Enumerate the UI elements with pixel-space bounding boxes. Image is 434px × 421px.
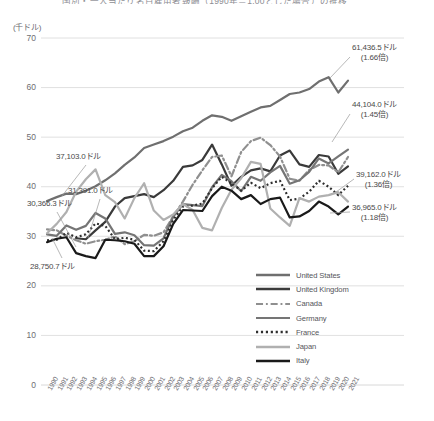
series-lines [47, 77, 348, 258]
legend-swatch-icon-germany [256, 313, 290, 323]
label-de-start-value: 30,366.3ドル [27, 199, 72, 209]
legend-swatch-icon-france [256, 327, 290, 337]
legend-item-italy[interactable]: Italy [256, 354, 364, 368]
label-it-start-value: 28,750.7ドル [30, 262, 75, 272]
label-ca-end-value: 39,162.0ドル [356, 170, 401, 180]
label-de-start: 30,366.3ドル [27, 199, 72, 209]
label-ca-end-ratio: (1.36倍) [356, 180, 401, 190]
y-tick-40: 40 [14, 181, 36, 191]
series-line-japan [47, 162, 348, 233]
label-us-end-leader [330, 57, 350, 78]
y-tick-10: 10 [14, 330, 36, 340]
label-fr-end-ratio: (1.18倍) [352, 213, 397, 223]
legend-item-japan[interactable]: Japan [256, 339, 364, 353]
label-it-start-leader [52, 238, 62, 258]
label-ca-start-value: 31,391.0ドル [68, 186, 113, 196]
legend-label-france: France [296, 328, 319, 337]
label-uk-end-ratio: (1.45倍) [352, 110, 397, 120]
label-us-start-value: 37,103.0ドル [56, 152, 101, 162]
legend-swatch-icon-united-kingdom [256, 284, 290, 294]
legend-item-united-states[interactable]: United States [256, 268, 364, 282]
label-uk-end: 44,104.0ドル(1.45倍) [352, 100, 397, 120]
label-ca-end: 39,162.0ドル(1.36倍) [356, 170, 401, 190]
chart-legend: United StatesUnited KingdomCanadaGermany… [256, 268, 364, 368]
y-tick-50: 50 [14, 132, 36, 142]
label-it-start: 28,750.7ドル [30, 262, 75, 272]
legend-item-canada[interactable]: Canada [256, 297, 364, 311]
y-tick-60: 60 [14, 82, 36, 92]
legend-item-united-kingdom[interactable]: United Kingdom [256, 282, 364, 296]
label-uk-end-leader [332, 114, 350, 142]
label-fr-end-leader [330, 212, 350, 213]
label-us-end: 61,436.5ドル(1.66倍) [352, 43, 397, 63]
legend-label-united-states: United States [296, 271, 340, 280]
y-tick-30: 30 [14, 231, 36, 241]
legend-label-united-kingdom: United Kingdom [296, 285, 349, 294]
legend-item-germany[interactable]: Germany [256, 311, 364, 325]
label-us-start: 37,103.0ドル [56, 152, 101, 162]
legend-swatch-icon-united-states [256, 270, 290, 280]
label-ca-start: 31,391.0ドル [68, 186, 113, 196]
legend-label-canada: Canada [296, 299, 322, 308]
label-us-end-ratio: (1.66倍) [352, 53, 397, 63]
series-line-united-states [47, 77, 348, 201]
label-fr-end: 36,965.0ドル(1.18倍) [352, 203, 397, 223]
label-us-end-value: 61,436.5ドル [352, 43, 397, 53]
legend-label-germany: Germany [296, 314, 327, 323]
legend-swatch-icon-japan [256, 342, 290, 352]
y-tick-20: 20 [14, 280, 36, 290]
label-fr-end-value: 36,965.0ドル [352, 203, 397, 213]
legend-label-japan: Japan [296, 342, 316, 351]
series-line-germany [47, 150, 348, 246]
legend-swatch-icon-italy [256, 356, 290, 366]
label-uk-end-value: 44,104.0ドル [352, 100, 397, 110]
legend-item-france[interactable]: France [256, 325, 364, 339]
y-tick-70: 70 [14, 33, 36, 43]
series-line-italy [47, 187, 348, 258]
legend-swatch-icon-canada [256, 299, 290, 309]
chart-container: 国別・一人当たり名目雇用者報酬（1990年＝1.00とした場合）の推移 (千ドル… [0, 0, 434, 421]
legend-label-italy: Italy [296, 356, 309, 365]
x-axis-tick-labels: 1990199119921993199419951996199719981999… [0, 386, 434, 421]
